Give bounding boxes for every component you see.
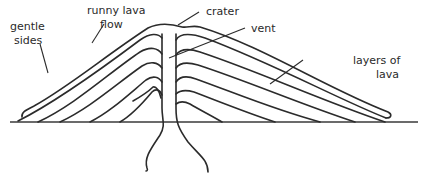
lava-layer-1	[18, 34, 162, 121]
volcano-diagram: gentle sides runny lava flow crater vent…	[0, 0, 433, 175]
lava-layer-left-4	[90, 77, 162, 122]
vent-left-wall	[146, 34, 163, 171]
label-runny-lava-2: flow	[100, 18, 123, 31]
label-layers-1: layers of	[353, 54, 402, 67]
lava-layer-right-5	[176, 91, 275, 122]
lava-layer-left-2	[38, 48, 162, 122]
label-layers-2: lava	[376, 68, 399, 81]
label-crater: crater	[206, 5, 239, 18]
gentle-sides-leader	[40, 44, 48, 73]
label-gentle-sides-2: sides	[14, 34, 43, 47]
label-runny-lava-1: runny lava	[87, 4, 146, 17]
label-gentle-sides-1: gentle	[10, 20, 45, 33]
vent-right-wall	[176, 34, 208, 172]
vent-leader	[169, 28, 245, 58]
lava-layer-right-6	[176, 102, 222, 122]
lava-layer-left-5	[120, 90, 162, 122]
label-vent: vent	[251, 22, 276, 35]
crater-leader	[178, 12, 199, 25]
lava-layer-right-4	[176, 77, 320, 122]
